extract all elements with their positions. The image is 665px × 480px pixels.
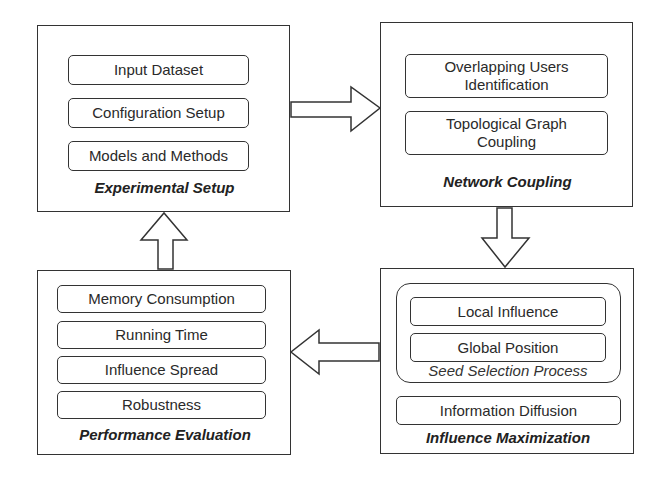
arrow-right-icon bbox=[291, 87, 380, 131]
workflow-diagram: Input Dataset Configuration Setup Models… bbox=[0, 0, 665, 480]
arrows-layer bbox=[0, 0, 665, 480]
arrow-up-icon bbox=[141, 213, 187, 269]
arrow-down-icon bbox=[482, 208, 529, 267]
arrow-left-icon bbox=[291, 330, 379, 374]
